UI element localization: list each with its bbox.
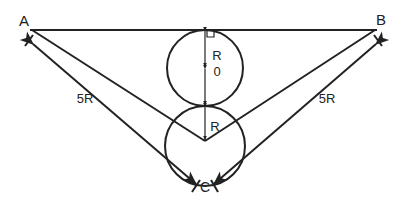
line-b-to-vertex <box>205 30 375 141</box>
line-a-to-vertex <box>32 30 205 141</box>
label-lower-radius: R <box>210 119 219 134</box>
label-upper-radius-sub: 0 <box>213 64 220 79</box>
label-left-5r: 5R <box>77 91 94 106</box>
tick-a <box>25 35 33 46</box>
geometry-diagram: A B C 5R 5R R 0 R <box>0 0 407 199</box>
label-right-5r: 5R <box>319 91 336 106</box>
label-upper-radius: R <box>212 48 221 63</box>
dimension-right-5r <box>214 44 376 184</box>
dimension-left-5r <box>33 44 196 184</box>
label-b: B <box>376 11 386 28</box>
label-c: C <box>200 179 210 195</box>
label-a: A <box>19 12 29 29</box>
